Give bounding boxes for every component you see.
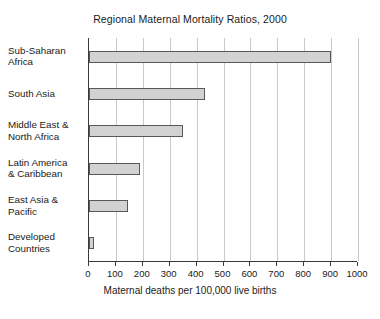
y-axis-label-line: North Africa [8,131,84,143]
y-axis-label-line: Sub-Saharan [8,45,66,56]
y-axis-label-line: Pacific [8,206,84,218]
y-axis-label-line: South Asia [8,88,55,99]
x-tick-mark [303,262,304,266]
x-tick-label: 400 [188,268,204,279]
bar [89,200,128,212]
chart-container: Regional Maternal Mortality Ratios, 2000… [0,0,380,319]
bar [89,163,140,175]
chart-title: Regional Maternal Mortality Ratios, 2000 [0,13,380,25]
x-tick-label: 200 [134,268,150,279]
x-tick-label: 700 [268,268,284,279]
y-axis-label: Middle East &North Africa [8,119,84,142]
y-axis-label: Sub-SaharanAfrica [8,45,84,68]
gridline [358,38,359,261]
y-axis-label-line: Middle East & [8,119,68,130]
y-axis-label: DevelopedCountries [8,231,84,254]
x-axis-title: Maternal deaths per 100,000 live births [0,285,380,296]
y-axis-label-line: & Caribbean [8,168,84,180]
bar [89,237,94,249]
y-axis-label-line: Africa [8,56,84,68]
y-axis-label: Latin America& Caribbean [8,157,84,180]
x-tick-label: 100 [107,268,123,279]
x-tick-mark [223,262,224,266]
y-axis-label: South Asia [8,88,84,100]
x-tick-label: 900 [322,268,338,279]
x-tick-mark [249,262,250,266]
x-tick-mark [142,262,143,266]
bars-layer [89,38,357,261]
bar [89,125,183,137]
bar [89,88,205,100]
x-tick-mark [196,262,197,266]
x-tick-mark [88,262,89,266]
x-tick-mark [169,262,170,266]
x-tick-mark [357,262,358,266]
x-tick-label: 500 [215,268,231,279]
x-tick-label: 600 [241,268,257,279]
bar [89,51,331,63]
x-tick-mark [115,262,116,266]
x-tick-mark [330,262,331,266]
x-tick-label: 0 [85,268,90,279]
x-tick-label: 800 [295,268,311,279]
plot-area [88,38,357,262]
y-axis-label-line: Developed [8,231,55,242]
y-axis-label-line: East Asia & [8,194,58,205]
x-tick-label: 300 [161,268,177,279]
y-axis-label: East Asia &Pacific [8,194,84,217]
y-axis-label-line: Countries [8,243,84,255]
x-tick-label: 1000 [346,268,367,279]
x-tick-mark [276,262,277,266]
y-axis-label-line: Latin America [8,157,67,168]
